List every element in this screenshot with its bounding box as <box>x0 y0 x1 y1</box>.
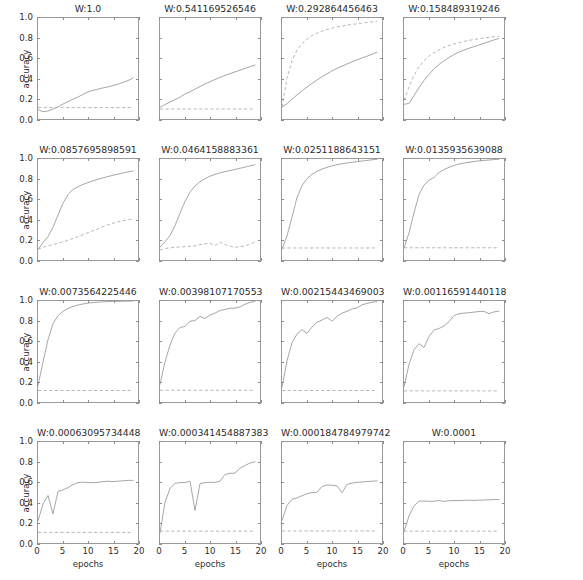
x-tick-mark <box>37 258 38 261</box>
x-tick-mark <box>261 117 262 120</box>
x-tick-mark <box>210 117 211 120</box>
y-tick-mark <box>281 99 284 100</box>
y-tick-mark <box>502 482 505 483</box>
y-tick-mark <box>403 362 406 363</box>
x-tick-mark <box>88 400 89 403</box>
y-tick-mark <box>502 382 505 383</box>
x-tick-mark <box>505 400 506 403</box>
y-tick-mark <box>403 503 406 504</box>
y-tick-mark <box>258 240 261 241</box>
x-tick-mark <box>159 117 160 120</box>
x-tick-mark <box>261 300 262 303</box>
y-tick-mark <box>281 362 284 363</box>
y-tick-mark <box>380 220 383 221</box>
x-tick-mark <box>63 400 64 403</box>
x-tick-mark <box>383 400 384 403</box>
subplot-panel: W:0.00018478497974205101520epochs <box>281 441 383 544</box>
y-tick-mark <box>258 382 261 383</box>
y-tick-mark <box>136 382 139 383</box>
y-tick-mark <box>258 523 261 524</box>
y-tick-label: 1.0 <box>19 154 33 163</box>
y-tick-mark <box>258 58 261 59</box>
plot-area <box>159 158 261 261</box>
x-tick-mark <box>159 400 160 403</box>
x-tick-mark <box>114 258 115 261</box>
y-tick-mark <box>403 341 406 342</box>
y-tick-mark <box>159 462 162 463</box>
y-axis-label: accuracy <box>21 332 31 371</box>
x-tick-mark <box>139 258 140 261</box>
y-tick-mark <box>380 462 383 463</box>
x-tick-mark <box>185 541 186 544</box>
x-tick-mark <box>358 541 359 544</box>
x-tick-mark <box>261 541 262 544</box>
y-tick-label: 1.0 <box>19 13 33 22</box>
subplot-panel: W:0.00215443469003 <box>281 300 383 403</box>
y-tick-label: 1.0 <box>19 437 33 446</box>
x-tick-mark <box>358 258 359 261</box>
y-tick-mark <box>136 362 139 363</box>
x-tick-mark <box>114 158 115 161</box>
x-tick-mark <box>139 300 140 303</box>
x-tick-mark <box>236 441 237 444</box>
y-axis-label: accuracy <box>21 190 31 229</box>
x-tick-label: 0 <box>400 547 405 556</box>
x-tick-mark <box>185 441 186 444</box>
x-tick-label: 5 <box>426 547 431 556</box>
x-tick-mark <box>139 400 140 403</box>
x-tick-mark <box>454 17 455 20</box>
y-tick-mark <box>37 341 40 342</box>
x-tick-label: 15 <box>474 547 485 556</box>
x-tick-mark <box>210 258 211 261</box>
y-tick-mark <box>281 382 284 383</box>
x-tick-label: 0 <box>34 547 39 556</box>
y-tick-mark <box>258 199 261 200</box>
x-tick-mark <box>37 158 38 161</box>
x-axis-label: epochs <box>281 559 383 569</box>
x-tick-mark <box>159 17 160 20</box>
y-tick-mark <box>380 503 383 504</box>
panel-title: W:0.0001 <box>403 427 505 439</box>
x-tick-mark <box>307 400 308 403</box>
y-tick-mark <box>281 544 284 545</box>
y-tick-label: 0.0 <box>19 257 33 266</box>
x-tick-mark <box>358 400 359 403</box>
plot-area <box>37 17 139 120</box>
x-tick-label: 20 <box>134 547 145 556</box>
x-tick-mark <box>88 441 89 444</box>
y-tick-mark <box>37 240 40 241</box>
x-tick-mark <box>358 441 359 444</box>
y-tick-label: 0.8 <box>19 33 33 42</box>
y-tick-mark <box>37 382 40 383</box>
subplot-panel: W:0.0135935639088 <box>403 158 505 261</box>
x-tick-mark <box>281 400 282 403</box>
y-tick-mark <box>37 58 40 59</box>
x-tick-mark <box>383 158 384 161</box>
x-tick-mark <box>307 258 308 261</box>
x-tick-mark <box>332 441 333 444</box>
y-tick-mark <box>258 120 261 121</box>
y-tick-mark <box>258 362 261 363</box>
x-tick-mark <box>114 441 115 444</box>
y-tick-mark <box>380 199 383 200</box>
x-tick-mark <box>281 17 282 20</box>
subplot-panel: W:0.0251188643151 <box>281 158 383 261</box>
x-tick-label: 5 <box>60 547 65 556</box>
y-tick-label: 0.2 <box>19 236 33 245</box>
subplot-panel: W:0.0464158883361 <box>159 158 261 261</box>
x-tick-label: 0 <box>278 547 283 556</box>
y-tick-mark <box>258 462 261 463</box>
y-tick-mark <box>136 38 139 39</box>
subplot-panel: W:0.000105101520epochs <box>403 441 505 544</box>
y-tick-mark <box>258 220 261 221</box>
x-tick-mark <box>114 117 115 120</box>
y-tick-label: 0.8 <box>19 174 33 183</box>
y-tick-mark <box>502 199 505 200</box>
y-tick-mark <box>37 99 40 100</box>
x-tick-mark <box>139 441 140 444</box>
x-tick-mark <box>403 158 404 161</box>
x-tick-label: 20 <box>256 547 267 556</box>
x-tick-mark <box>505 158 506 161</box>
y-tick-mark <box>281 79 284 80</box>
x-tick-label: 20 <box>378 547 389 556</box>
